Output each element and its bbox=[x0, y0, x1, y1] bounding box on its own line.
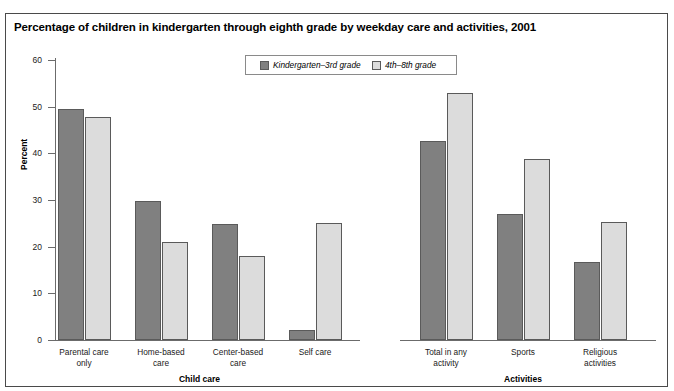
bar bbox=[85, 117, 111, 340]
y-axis-tick-label: 40 bbox=[22, 148, 42, 158]
legend-label-series-1: 4th–8th grade bbox=[385, 60, 436, 70]
bar bbox=[212, 224, 238, 340]
bar bbox=[135, 201, 161, 340]
y-axis-tick bbox=[48, 107, 56, 108]
y-axis-tick-label: 60 bbox=[22, 55, 42, 65]
bar bbox=[289, 330, 315, 340]
legend-item-series-0: Kindergarten–3rd grade bbox=[260, 60, 361, 70]
bar bbox=[58, 109, 84, 340]
chart-legend: Kindergarten–3rd grade 4th–8th grade bbox=[245, 55, 457, 75]
y-axis-tick bbox=[48, 60, 56, 61]
legend-item-series-1: 4th–8th grade bbox=[372, 60, 436, 70]
x-axis-line-left bbox=[56, 340, 360, 341]
y-axis-tick bbox=[48, 340, 56, 341]
bar bbox=[239, 256, 265, 340]
y-axis-tick-label: 20 bbox=[22, 242, 42, 252]
legend-swatch-icon-series-0 bbox=[260, 61, 269, 70]
x-axis-category-label: Self care bbox=[270, 347, 360, 358]
y-axis-tick bbox=[48, 153, 56, 154]
chart-title: Percentage of children in kindergarten t… bbox=[14, 21, 536, 33]
bar bbox=[524, 159, 550, 340]
plot-area bbox=[56, 60, 656, 340]
bar bbox=[162, 242, 188, 340]
screenshot-root: Indicator Percentage of children in kind… bbox=[0, 0, 674, 391]
y-axis-tick-label: 10 bbox=[22, 288, 42, 298]
y-axis-tick-label: 50 bbox=[22, 102, 42, 112]
x-axis-line-right bbox=[400, 340, 656, 341]
x-axis-category-label: Religious activities bbox=[555, 347, 645, 368]
legend-swatch-icon-series-1 bbox=[372, 61, 381, 70]
x-axis-section-label: Activities bbox=[463, 374, 583, 384]
y-axis-tick-label: 30 bbox=[22, 195, 42, 205]
bar bbox=[420, 141, 446, 340]
legend-label-series-0: Kindergarten–3rd grade bbox=[273, 60, 361, 70]
y-axis-tick bbox=[48, 247, 56, 248]
bar bbox=[316, 223, 342, 340]
bar bbox=[574, 262, 600, 340]
bar bbox=[447, 93, 473, 340]
bar-series-container bbox=[56, 60, 656, 340]
y-axis-tick bbox=[48, 200, 56, 201]
bar bbox=[601, 222, 627, 340]
y-axis-tick bbox=[48, 293, 56, 294]
x-axis-section-label: Child care bbox=[140, 374, 260, 384]
bar bbox=[497, 214, 523, 340]
y-axis-tick-label: 0 bbox=[22, 335, 42, 345]
